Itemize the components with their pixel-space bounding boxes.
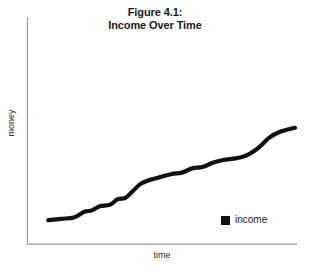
legend-label-income: income xyxy=(235,215,267,225)
chart-legend: income xyxy=(221,215,267,225)
x-axis-label: time xyxy=(27,250,297,260)
y-axis-label: money xyxy=(6,101,16,145)
figure-container: Figure 4.1: Income Over Time money time … xyxy=(0,0,310,278)
plot-area xyxy=(0,0,310,278)
income-line-series xyxy=(48,128,295,220)
legend-swatch-income xyxy=(221,216,230,225)
